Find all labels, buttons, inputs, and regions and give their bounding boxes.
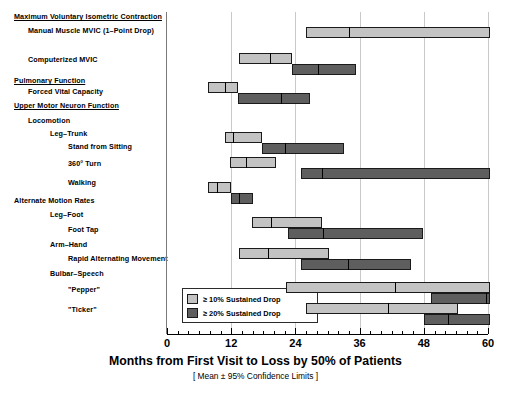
x-axis-label: Months from First Visit to Loss by 50% o… [0,354,511,368]
x-tick-major [424,328,425,334]
row-label: Upper Motor Neuron Function [14,101,119,110]
row-label: Forced Vital Capacity [28,87,103,96]
row-label: 360° Turn [68,159,101,168]
mean-marker [246,157,247,168]
row-label: Computerized MVIC [28,55,98,64]
row-label: Manual Muscle MVIC (1–Point Drop) [28,26,154,35]
chart-figure: Maximum Voluntary Isometric ContractionM… [0,0,511,395]
mean-marker [271,217,272,228]
legend-item-drop20: ≥ 20% Sustained Drop [187,306,313,320]
mean-marker [268,248,269,259]
ci-bar-drop20 [288,228,422,239]
ci-bar-drop10 [230,157,275,168]
x-tick-major [167,328,168,334]
mean-marker [225,82,226,93]
x-tick-minor [178,331,179,334]
mean-marker [323,228,324,239]
x-tick-minor [402,331,403,334]
legend-item-drop10: ≥ 10% Sustained Drop [187,292,313,306]
row-label: Maximum Voluntary Isometric Contraction [14,12,162,21]
legend-label-drop20: ≥ 20% Sustained Drop [203,309,281,318]
mean-marker [395,282,396,293]
mean-marker [285,143,286,154]
row-label: Foot Tap [68,225,99,234]
x-axis-line [167,334,488,335]
ci-bar-drop20 [231,193,253,204]
x-tick-minor [328,331,329,334]
x-tick-major [231,328,232,334]
mean-marker [318,64,319,75]
x-tick-minor [467,331,468,334]
x-tick-label: 48 [418,337,430,349]
x-tick-minor [306,331,307,334]
mean-marker [239,193,240,204]
x-tick-minor [445,331,446,334]
row-label: "Pepper" [68,285,100,294]
x-tick-minor [285,331,286,334]
x-tick-minor [338,331,339,334]
row-label: Alternate Motion Rates [14,196,94,205]
ci-bar-drop10 [252,217,322,228]
x-tick-minor [317,331,318,334]
x-tick-minor [253,331,254,334]
x-tick-minor [413,331,414,334]
row-label: "Ticker" [68,305,97,314]
mean-marker [348,259,349,270]
row-label: Leg–Trunk [50,129,87,138]
row-label: Locomotion [28,116,70,125]
row-label: Walking [68,178,96,187]
x-tick-minor [477,331,478,334]
ci-bar-drop20 [301,168,490,179]
mean-marker [322,168,323,179]
row-label: Pulmonary Function [14,76,85,85]
row-label: Arm–Hand [50,240,87,249]
x-tick-label: 60 [482,337,494,349]
row-label: Stand from Sitting [68,142,132,151]
ci-bar-drop10 [239,53,291,64]
x-tick-minor [263,331,264,334]
x-tick-label: 36 [353,337,365,349]
x-tick-label: 24 [289,337,301,349]
x-tick-minor [392,331,393,334]
ci-bar-drop10 [208,82,238,93]
mean-marker [281,93,282,104]
x-tick-minor [242,331,243,334]
x-tick-minor [199,331,200,334]
legend-swatch-icon-light [187,294,198,304]
mean-marker [486,293,487,304]
ci-bar-drop20 [238,93,310,104]
x-tick-minor [221,331,222,334]
ci-bar-drop10 [306,303,458,314]
x-tick-major [360,328,361,334]
legend-label-drop10: ≥ 10% Sustained Drop [203,295,281,304]
mean-marker [233,132,234,143]
x-axis-sublabel: [ Mean ± 95% Confidence Limits ] [0,371,511,381]
mean-marker [217,182,218,193]
mean-marker [388,303,389,314]
x-tick-minor [435,331,436,334]
ci-bar-drop10 [225,132,262,143]
mean-marker [448,314,449,325]
ci-bar-drop20 [292,64,357,75]
legend-swatch-icon-dark [187,308,198,318]
mean-marker [270,53,271,64]
row-label: Rapid Alternating Movement [68,254,168,263]
x-tick-minor [274,331,275,334]
x-tick-minor [381,331,382,334]
mean-marker [349,27,350,38]
ci-bar-drop10 [208,182,231,193]
ci-bar-drop20 [301,259,411,270]
x-tick-label: 0 [164,337,170,349]
ci-bar-drop20 [262,143,343,154]
x-tick-minor [188,331,189,334]
ci-bar-drop20 [424,314,490,325]
x-tick-minor [210,331,211,334]
row-label: Bulbar–Speech [50,269,104,278]
legend: ≥ 10% Sustained Drop ≥ 20% Sustained Dro… [182,288,318,323]
ci-bar-drop10 [286,282,490,293]
ci-bar-drop10 [239,248,328,259]
x-tick-minor [349,331,350,334]
x-tick-major [488,328,489,334]
x-tick-label: 12 [225,337,237,349]
x-tick-major [295,328,296,334]
